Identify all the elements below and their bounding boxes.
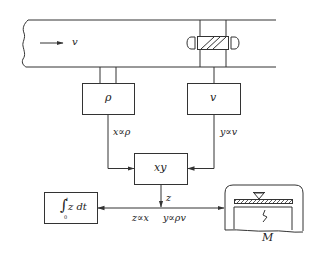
velocity-sensor-icon (187, 20, 239, 67)
relation-right-label: y∝ρv (163, 213, 186, 223)
velocity-block-label: v (210, 92, 216, 103)
density-signal-label: x∝ρ (113, 127, 130, 137)
mass-flow-diagram: v ρ v xy ∫ t 0 z dt x∝ρ y∝v z z∝x y∝ρv M (0, 0, 320, 254)
product-signal-label: z (166, 193, 171, 203)
diagram-graphics (0, 0, 320, 254)
density-sensor-connection (100, 67, 116, 83)
integral-expression: z dt (68, 202, 87, 212)
velocity-signal-label: y∝v (220, 127, 237, 137)
density-signal-line (108, 115, 134, 169)
scale-icon (225, 185, 303, 232)
flow-velocity-label: v (72, 37, 78, 47)
velocity-signal-line (188, 115, 214, 169)
density-block-label: ρ (105, 92, 111, 103)
pipe-break-edge (22, 20, 28, 67)
relation-left-label: z∝x (132, 213, 149, 223)
integral-lower-limit: 0 (64, 215, 67, 220)
scale-mass-label: M (262, 232, 273, 243)
multiplier-block-label: xy (154, 162, 166, 173)
